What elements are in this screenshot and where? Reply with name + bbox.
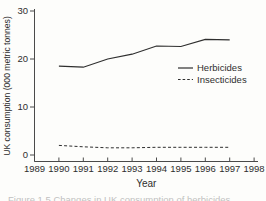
x-tick-label: 1990 xyxy=(48,163,69,174)
y-tick-label: 0 xyxy=(23,149,28,160)
x-tick-label: 1991 xyxy=(73,163,94,174)
x-tick-label: 1993 xyxy=(122,163,143,174)
pesticide-consumption-figure: 0102030198919901991199219931994199519961… xyxy=(0,0,266,201)
legend-label: Herbicides xyxy=(197,62,242,73)
x-tick-label: 1989 xyxy=(24,163,45,174)
line-chart-svg: 0102030198919901991199219931994199519961… xyxy=(0,0,266,201)
axes xyxy=(35,9,259,162)
series-insecticides-line xyxy=(59,145,230,147)
x-tick-label: 1998 xyxy=(244,163,265,174)
x-tick-label: 1997 xyxy=(219,163,240,174)
x-axis-label: Year xyxy=(136,178,157,189)
x-tick-label: 1994 xyxy=(146,163,167,174)
x-tick-label: 1996 xyxy=(195,163,216,174)
x-tick-label: 1995 xyxy=(170,163,191,174)
y-tick-label: 20 xyxy=(17,53,28,64)
y-tick-label: 10 xyxy=(17,101,28,112)
legend-item-herbicides: Herbicides xyxy=(178,62,242,73)
x-axis: 1989199019911992199319941995199619971998 xyxy=(24,158,265,175)
x-tick-label: 1992 xyxy=(97,163,118,174)
figure-caption: Figure 1.5 Changes in UK consumption of … xyxy=(8,194,264,201)
legend-item-insecticides: Insecticides xyxy=(178,74,247,85)
y-axis: 0102030 xyxy=(17,5,34,160)
y-axis-label: UK consumption (000 metric tonnes) xyxy=(2,16,12,156)
y-tick-label: 30 xyxy=(17,5,28,16)
legend-label: Insecticides xyxy=(197,74,247,85)
